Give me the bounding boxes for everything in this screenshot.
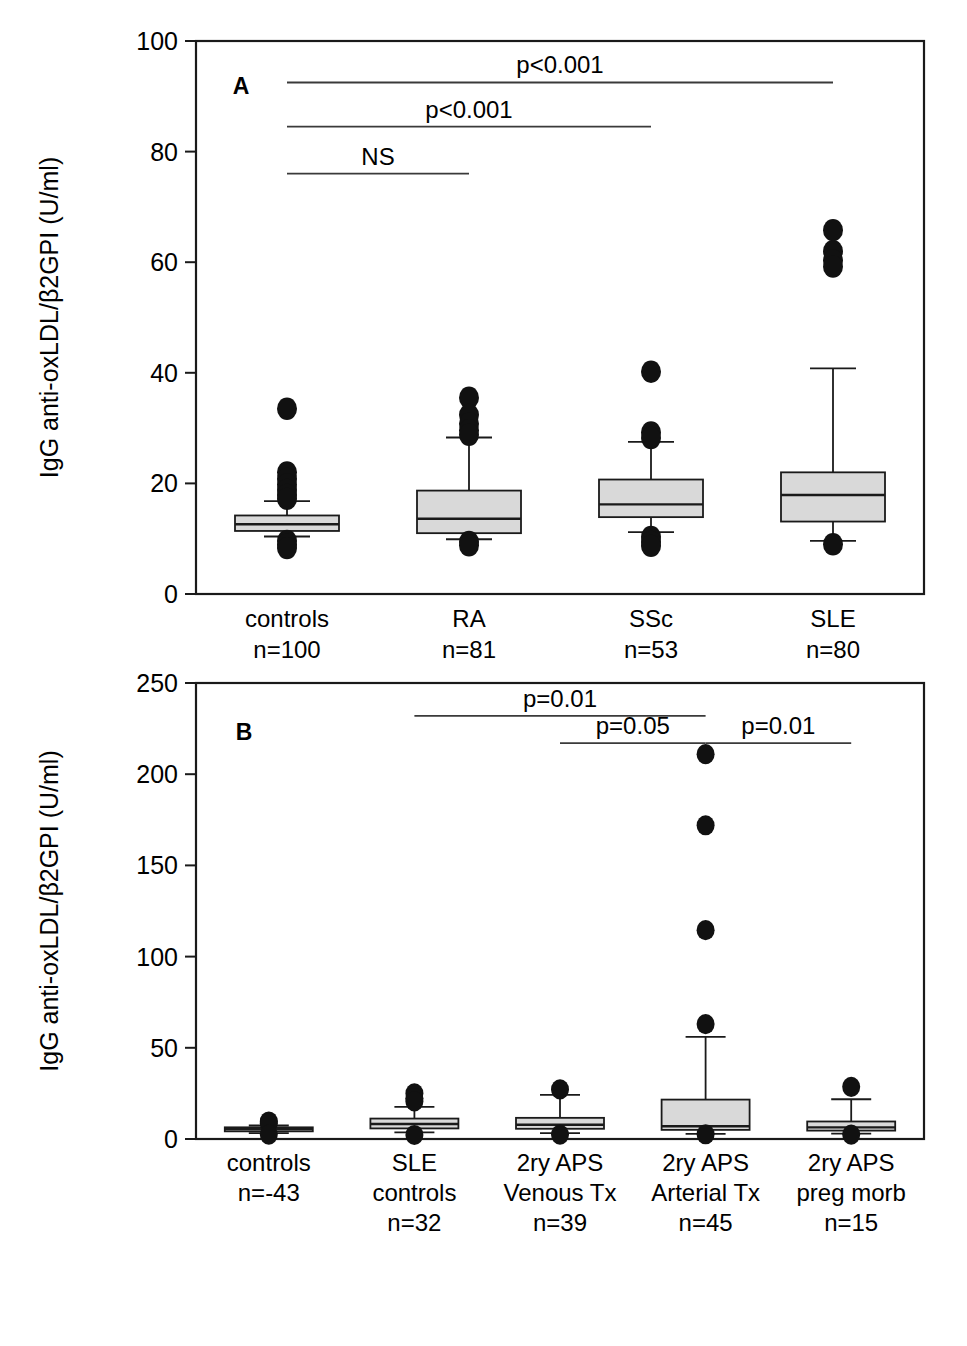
x-axis-label: n=81 — [442, 636, 496, 663]
outlier-point — [823, 533, 843, 555]
x-axis-label: 2ry APS — [662, 1149, 749, 1176]
boxplot-group — [516, 1079, 604, 1144]
boxplot-group — [370, 1083, 458, 1145]
x-axis-label: 2ry APS — [517, 1149, 604, 1176]
significance-label: p<0.001 — [516, 51, 603, 78]
y-axis-title: IgG anti-oxLDL/β2GPI (U/ml) — [35, 157, 63, 478]
x-axis-label: Arterial Tx — [651, 1179, 760, 1206]
y-tick-label: 100 — [136, 27, 178, 55]
outlier-point — [697, 1124, 715, 1144]
outlier-point — [641, 535, 661, 557]
significance-label: p=0.05 — [596, 712, 670, 739]
boxplot-group — [807, 1077, 895, 1145]
x-axis-label: n=100 — [253, 636, 320, 663]
figure-container: 020406080100IgG anti-oxLDL/β2GPI (U/ml)A… — [0, 0, 967, 1346]
outlier-point — [405, 1091, 423, 1111]
significance-label: p=0.01 — [523, 685, 597, 712]
outlier-point — [641, 360, 661, 382]
outlier-point — [697, 920, 715, 940]
outlier-point — [551, 1125, 569, 1145]
x-axis-label: SLE — [810, 605, 855, 632]
outlier-point — [823, 255, 843, 277]
x-axis-label: controls — [227, 1149, 311, 1176]
y-tick-label: 0 — [164, 1125, 178, 1153]
x-axis-label: n=15 — [824, 1209, 878, 1236]
significance-label: p<0.001 — [425, 96, 512, 123]
panel-b-chart: 050100150200250IgG anti-oxLDL/β2GPI (U/m… — [0, 660, 967, 1346]
y-tick-label: 20 — [150, 469, 178, 497]
outlier-point — [823, 219, 843, 241]
outlier-point — [697, 744, 715, 764]
outlier-point — [277, 537, 297, 559]
y-tick-label: 50 — [150, 1034, 178, 1062]
outlier-point — [551, 1079, 569, 1099]
y-tick-label: 150 — [136, 851, 178, 879]
box-iqr — [599, 480, 703, 518]
y-tick-label: 100 — [136, 943, 178, 971]
outlier-point — [277, 488, 297, 510]
outlier-point — [459, 534, 479, 556]
box-iqr — [417, 491, 521, 534]
y-tick-label: 80 — [150, 138, 178, 166]
x-axis-label: n=32 — [387, 1209, 441, 1236]
x-axis-label: n=53 — [624, 636, 678, 663]
significance-label: p=0.01 — [741, 712, 815, 739]
outlier-point — [697, 1014, 715, 1034]
boxplot-group — [599, 360, 703, 557]
outlier-point — [405, 1125, 423, 1145]
boxplot-group — [662, 744, 750, 1144]
panel-a: 020406080100IgG anti-oxLDL/β2GPI (U/ml)A… — [0, 0, 967, 670]
x-axis-label: SSc — [629, 605, 673, 632]
outlier-point — [459, 424, 479, 446]
significance-label: NS — [361, 143, 394, 170]
y-axis-title: IgG anti-oxLDL/β2GPI (U/ml) — [35, 750, 63, 1071]
x-axis-label: RA — [452, 605, 485, 632]
plot-frame — [196, 683, 924, 1139]
boxplot-group — [235, 398, 339, 560]
x-axis-label: controls — [372, 1179, 456, 1206]
outlier-point — [277, 398, 297, 420]
boxplot-group — [781, 219, 885, 556]
x-axis-label: Venous Tx — [504, 1179, 617, 1206]
panel-letter: B — [236, 719, 253, 745]
x-axis-label: n=45 — [679, 1209, 733, 1236]
y-tick-label: 60 — [150, 248, 178, 276]
panel-a-chart: 020406080100IgG anti-oxLDL/β2GPI (U/ml)A… — [0, 0, 967, 670]
outlier-point — [842, 1125, 860, 1145]
outlier-point — [260, 1125, 278, 1145]
x-axis-label: controls — [245, 605, 329, 632]
x-axis-label: preg morb — [797, 1179, 906, 1206]
y-tick-label: 0 — [164, 580, 178, 608]
outlier-point — [842, 1077, 860, 1097]
x-axis-label: SLE — [392, 1149, 437, 1176]
y-tick-label: 40 — [150, 359, 178, 387]
outlier-point — [641, 427, 661, 449]
x-axis-label: n=-43 — [238, 1179, 300, 1206]
y-tick-label: 200 — [136, 760, 178, 788]
box-iqr — [781, 472, 885, 521]
x-axis-label: n=80 — [806, 636, 860, 663]
panel-b: 050100150200250IgG anti-oxLDL/β2GPI (U/m… — [0, 660, 967, 1346]
x-axis-label: 2ry APS — [808, 1149, 895, 1176]
boxplot-group — [417, 386, 521, 556]
panel-letter: A — [233, 73, 250, 99]
x-axis-label: n=39 — [533, 1209, 587, 1236]
y-tick-label: 250 — [136, 669, 178, 697]
outlier-point — [697, 815, 715, 835]
